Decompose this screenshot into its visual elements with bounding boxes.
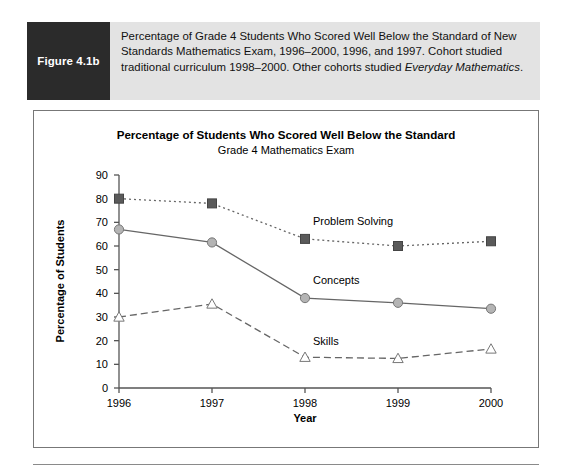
y-axis-tick-label: 70	[96, 216, 108, 228]
y-axis-tick-label: 50	[96, 264, 108, 276]
caption-part-2: .	[520, 61, 523, 73]
data-point-marker	[487, 237, 496, 246]
caption-italic-title: Everyday Mathematics	[405, 61, 520, 73]
series-line	[119, 304, 491, 358]
x-axis-ticks: 19961997199819992000	[107, 388, 503, 409]
line-chart-plot: 0102030405060708090 19961997199819992000…	[34, 111, 540, 449]
y-axis-tick-label: 0	[102, 382, 108, 394]
x-axis-tick-label: 1999	[386, 397, 410, 409]
y-axis-tick-label: 40	[96, 287, 108, 299]
x-axis-tick-label: 1998	[293, 397, 317, 409]
data-point-marker	[300, 293, 309, 302]
y-axis-tick-label: 60	[96, 240, 108, 252]
figure-caption-band: Figure 4.1b Percentage of Grade 4 Studen…	[27, 22, 540, 100]
data-point-marker	[115, 194, 124, 203]
data-point-marker	[486, 304, 495, 313]
data-point-marker	[207, 238, 216, 247]
data-point-marker	[207, 299, 217, 308]
chart-series-labels: Problem SolvingConceptsSkills	[313, 215, 393, 347]
figure-caption-text: Percentage of Grade 4 Students Who Score…	[110, 22, 540, 100]
bottom-divider	[33, 464, 539, 465]
series-label-problem-solving: Problem Solving	[313, 215, 393, 227]
x-axis-tick-label: 1996	[107, 397, 131, 409]
series-label-skills: Skills	[313, 335, 339, 347]
x-axis-title: Year	[293, 412, 317, 424]
figure-label: Figure 4.1b	[37, 55, 99, 67]
chart-panel: Percentage of Students Who Scored Well B…	[33, 110, 539, 448]
chart-series-group	[114, 194, 496, 362]
x-axis-tick-label: 1997	[200, 397, 224, 409]
data-point-marker	[486, 344, 496, 353]
y-axis-tick-label: 20	[96, 335, 108, 347]
y-axis-tick-label: 30	[96, 311, 108, 323]
x-axis-tick-label: 2000	[479, 397, 503, 409]
y-axis-tick-label: 10	[96, 358, 108, 370]
y-axis-tick-label: 90	[96, 169, 108, 181]
data-point-marker	[301, 234, 310, 243]
y-axis-title: Percentage of Students	[54, 220, 66, 343]
data-point-marker	[394, 242, 403, 251]
data-point-marker	[114, 225, 123, 234]
figure-label-box: Figure 4.1b	[27, 22, 110, 100]
data-point-marker	[208, 199, 217, 208]
y-axis-tick-label: 80	[96, 193, 108, 205]
data-point-marker	[393, 298, 402, 307]
series-label-concepts: Concepts	[313, 274, 360, 286]
